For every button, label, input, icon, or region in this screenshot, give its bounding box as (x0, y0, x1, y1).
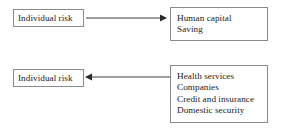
node-label-line-1: Human capital (177, 13, 267, 24)
node-label-line-2: Companies (177, 82, 267, 93)
node-label-line-3: Credit and insurance (177, 94, 267, 105)
node-label-line-2: Saving (177, 24, 267, 35)
node-individual-risk-top[interactable]: Individual risk (13, 9, 84, 27)
node-label: Individual risk (18, 73, 83, 84)
node-label-line-4: Domestic security (177, 105, 267, 116)
diagram-canvas: Individual risk Human capital Saving Ind… (0, 0, 284, 137)
arrow-left-providers-to-individual-risk (84, 71, 170, 83)
node-individual-risk-bottom[interactable]: Individual risk (13, 69, 84, 87)
arrow-left-icon (84, 71, 170, 83)
node-label-line-1: Health services (177, 71, 267, 82)
node-outcomes-top[interactable]: Human capital Saving (170, 7, 268, 41)
node-label: Individual risk (18, 13, 83, 24)
arrow-right-individual-risk-to-outcomes (86, 12, 168, 24)
arrow-right-icon (86, 12, 168, 24)
node-providers-bottom[interactable]: Health services Companies Credit and ins… (170, 65, 268, 123)
